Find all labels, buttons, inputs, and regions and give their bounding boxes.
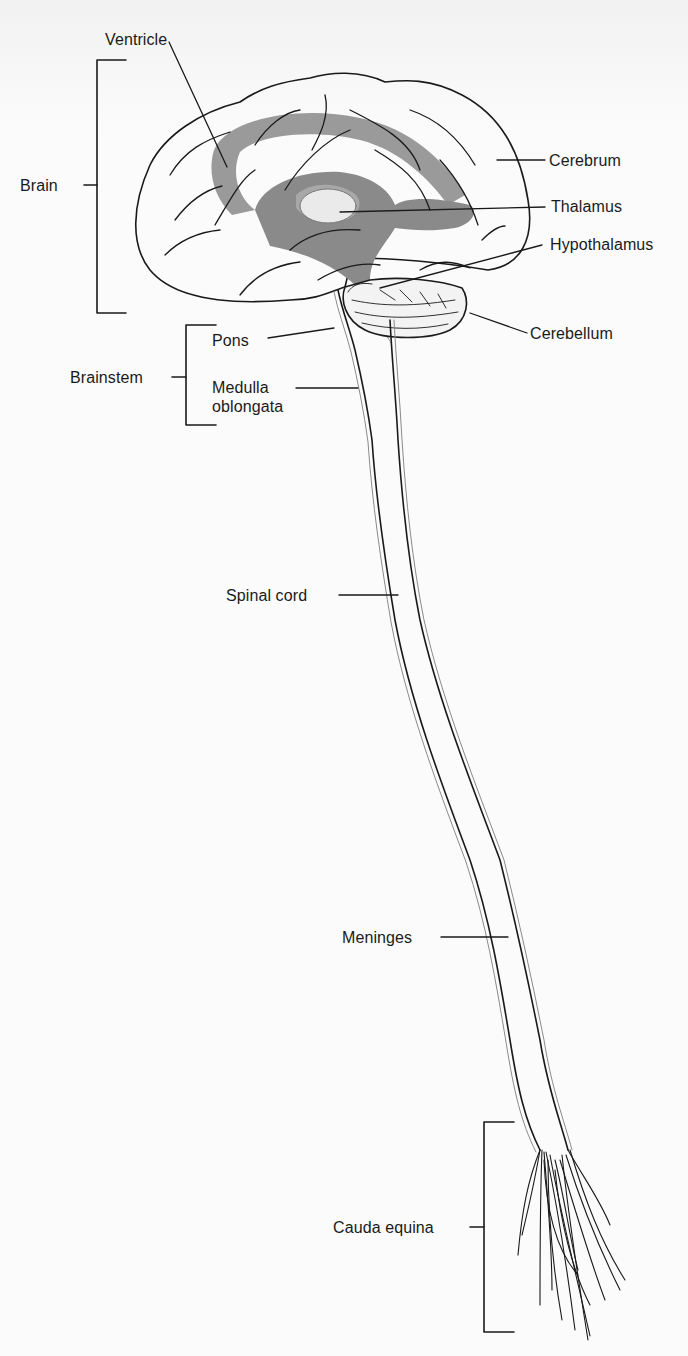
label-meninges: Meninges bbox=[342, 928, 412, 947]
cauda-equina-fibers bbox=[518, 1150, 625, 1340]
label-brain: Brain bbox=[20, 176, 58, 195]
leader-hypothalamus bbox=[380, 245, 542, 288]
cerebellum bbox=[343, 278, 466, 337]
label-hypothalamus: Hypothalamus bbox=[550, 235, 653, 254]
leader-cerebellum bbox=[470, 313, 527, 333]
label-cerebrum: Cerebrum bbox=[549, 151, 621, 170]
brainstem-bracket bbox=[172, 325, 216, 425]
spinal-cord bbox=[334, 290, 572, 1152]
leader-ventricle bbox=[169, 42, 227, 167]
label-medulla-line2: oblongata bbox=[212, 397, 283, 416]
thalamus-shape bbox=[300, 189, 356, 223]
label-spinal-cord: Spinal cord bbox=[226, 586, 307, 605]
leader-pons bbox=[268, 328, 334, 338]
brain-bracket bbox=[84, 60, 126, 313]
cauda-equina-bracket bbox=[470, 1122, 514, 1332]
label-ventricle: Ventricle bbox=[105, 30, 167, 49]
label-medulla-line1: Medulla bbox=[212, 378, 269, 397]
label-cauda-equina: Cauda equina bbox=[333, 1218, 434, 1237]
label-brainstem: Brainstem bbox=[70, 368, 143, 387]
label-pons: Pons bbox=[212, 331, 249, 350]
label-cerebellum: Cerebellum bbox=[530, 324, 613, 343]
label-thalamus: Thalamus bbox=[551, 197, 622, 216]
